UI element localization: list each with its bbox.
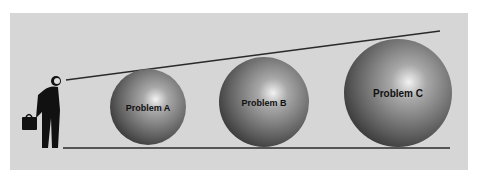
diagram-canvas: Problem A Problem B Problem C — [0, 0, 481, 176]
sphere-label: Problem B — [241, 98, 287, 108]
sphere-label: Problem A — [126, 103, 171, 113]
sphere-problem-b: Problem B — [219, 57, 309, 147]
sphere-problem-c: Problem C — [344, 39, 452, 147]
sphere-label: Problem C — [373, 88, 423, 99]
businessman-icon — [22, 76, 61, 148]
sphere-problem-a: Problem A — [110, 69, 186, 145]
